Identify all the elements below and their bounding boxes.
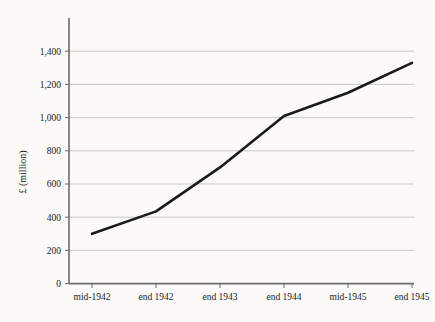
y-tick-label-200: 200 <box>47 246 62 256</box>
y-axis-title: £ (million) <box>17 150 29 193</box>
x-tick-label-end-1942: end 1942 <box>138 292 173 302</box>
x-tick-label-end-1943: end 1943 <box>202 292 237 302</box>
x-tick-label-mid-1945: mid-1945 <box>330 292 367 302</box>
x-tick-label-end-1945: end 1945 <box>394 292 429 302</box>
y-tick-label-400: 400 <box>47 213 62 223</box>
line-chart: 0 200 400 600 800 1,000 1,200 1,400 mid-… <box>0 0 435 322</box>
y-tick-label-1000: 1,000 <box>40 113 62 123</box>
y-tick-label-0: 0 <box>56 279 61 289</box>
chart-background <box>0 0 435 322</box>
x-tick-label-end-1944: end 1944 <box>266 292 301 302</box>
y-tick-label-1400: 1,400 <box>40 47 62 57</box>
chart-figure: 0 200 400 600 800 1,000 1,200 1,400 mid-… <box>0 0 435 322</box>
y-tick-label-1200: 1,200 <box>40 80 62 90</box>
y-tick-label-600: 600 <box>47 179 62 189</box>
x-tick-label-mid-1942: mid-1942 <box>74 292 111 302</box>
y-tick-label-800: 800 <box>47 146 62 156</box>
